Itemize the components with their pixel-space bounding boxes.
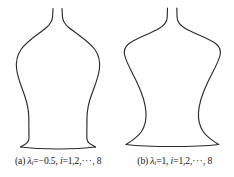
caption-b-value: =1, (156, 155, 168, 166)
vase-outline-b (117, 0, 234, 155)
vase-b-foot-base (126, 145, 219, 147)
caption-a-index-end: , 8 (92, 155, 101, 166)
caption-b-index-end: , 8 (203, 155, 212, 166)
caption-a-index-range: =1,2, (62, 155, 81, 166)
caption-a: (a) λi=−0.5, i=1,2,···, 8 (0, 154, 117, 177)
caption-b-ellipsis: ··· (192, 155, 203, 166)
caption-a-value: =−0.5, (33, 155, 57, 166)
vase-a-left-profile (16, 9, 53, 148)
caption-b: (b) λi=1, i=1,2,···, 8 (117, 154, 234, 177)
caption-b-tag: (b) (137, 155, 148, 166)
vase-outline-a (0, 0, 117, 155)
vase-b-left-profile (124, 8, 167, 145)
caption-a-ellipsis: ··· (82, 155, 93, 166)
vase-profile-figure: (a) λi=−0.5, i=1,2,···, 8 (b) λi=1, i=1,… (0, 0, 233, 177)
vase-a-foot-base (21, 147, 96, 149)
panel-a (0, 0, 117, 155)
panel-b (117, 0, 234, 155)
caption-a-tag: (a) (15, 155, 25, 166)
vase-b-right-profile (176, 8, 220, 145)
vase-a-right-profile (62, 9, 100, 148)
figure-panels (0, 0, 233, 155)
figure-captions: (a) λi=−0.5, i=1,2,···, 8 (b) λi=1, i=1,… (0, 154, 233, 177)
caption-b-index-range: =1,2, (173, 155, 192, 166)
